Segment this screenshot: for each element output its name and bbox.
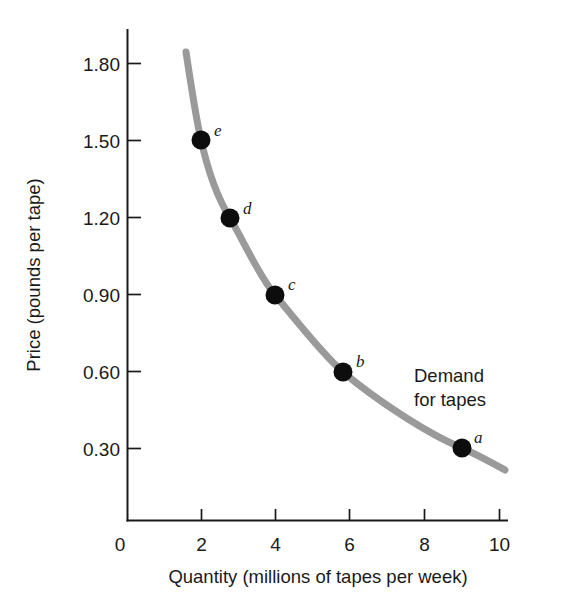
demand-curve-chart: 1.80 1.50 1.20 0.90 0.60 0.30 0 2 4 6 8 … bbox=[0, 0, 570, 602]
x-tick-label-3: 4 bbox=[270, 534, 281, 555]
data-point-label-b: b bbox=[356, 352, 365, 371]
x-tick-label-6: 10 bbox=[489, 534, 510, 555]
y-tick-label-2: 1.50 bbox=[83, 131, 120, 152]
data-point-d bbox=[221, 209, 240, 228]
y-tick-label-5: 0.60 bbox=[83, 362, 120, 383]
data-point-label-d: d bbox=[243, 199, 252, 218]
x-axis-title: Quantity (millions of tapes per week) bbox=[168, 566, 467, 587]
data-point-label-c: c bbox=[288, 275, 296, 294]
data-point-c bbox=[266, 286, 285, 305]
annotation-line-2: for tapes bbox=[414, 389, 486, 410]
y-tick-label-3: 1.20 bbox=[83, 208, 120, 229]
demand-curve-figure: 1.80 1.50 1.20 0.90 0.60 0.30 0 2 4 6 8 … bbox=[0, 0, 570, 602]
x-tick-labels-group: 0 2 4 6 8 10 bbox=[115, 534, 510, 555]
data-point-a bbox=[453, 439, 472, 458]
x-tick-label-4: 6 bbox=[344, 534, 355, 555]
y-axis-title: Price (pounds per tape) bbox=[23, 178, 44, 371]
axes-group bbox=[128, 30, 508, 521]
y-tick-label-6: 0.30 bbox=[83, 439, 120, 460]
data-point-label-e: e bbox=[214, 121, 222, 140]
x-tick-label-5: 8 bbox=[419, 534, 430, 555]
x-ticks-group bbox=[202, 509, 500, 521]
y-tick-labels-group: 1.80 1.50 1.20 0.90 0.60 0.30 bbox=[83, 54, 120, 460]
demand-curve-annotation: Demand for tapes bbox=[414, 365, 486, 410]
x-tick-label-2: 2 bbox=[196, 534, 207, 555]
y-tick-label-4: 0.90 bbox=[83, 285, 120, 306]
annotation-line-1: Demand bbox=[414, 365, 484, 386]
x-tick-label-1: 0 bbox=[115, 534, 126, 555]
data-point-e bbox=[192, 131, 211, 150]
data-point-b bbox=[334, 363, 353, 382]
data-point-label-a: a bbox=[474, 428, 483, 447]
y-tick-label-1: 1.80 bbox=[83, 54, 120, 75]
y-ticks-group bbox=[128, 64, 142, 449]
